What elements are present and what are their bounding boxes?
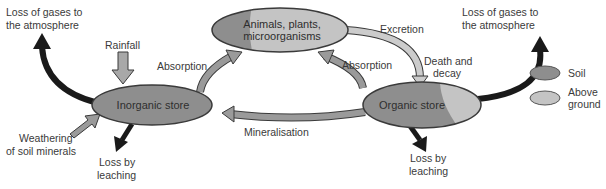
node-inorganic-label: Inorganic store — [117, 99, 190, 111]
label-rainfall: Rainfall — [105, 39, 140, 51]
legend-item-soil: Soil — [530, 66, 586, 80]
nutrient-cycle-diagram: Animals, plants, microorganisms Inorgani… — [0, 0, 606, 189]
leaching-arrow-left — [114, 124, 132, 152]
label-loss-gases-left: Loss of gases to — [6, 6, 83, 18]
legend-item-above-ground: Above ground — [530, 86, 601, 110]
legend: Soil Above ground — [530, 66, 601, 110]
label-weathering-2: of soil minerals — [6, 145, 76, 157]
label-loss-gases-right: Loss of gases to — [462, 6, 539, 18]
label-death-decay-2: decay — [433, 67, 462, 79]
node-organisms-line1: Animals, plants, — [243, 18, 321, 30]
label-leaching-right: Loss by — [410, 152, 447, 164]
node-organic-label: Organic store — [379, 99, 445, 111]
label-leaching-left-2: leaching — [97, 169, 136, 181]
label-absorption-right: Absorption — [342, 59, 392, 71]
legend-label-ground: ground — [568, 98, 601, 110]
node-inorganic-store: Inorganic store — [92, 85, 212, 125]
weathering-arrow — [70, 114, 100, 138]
label-leaching-left: Loss by — [99, 156, 136, 168]
leaching-arrow-right — [410, 126, 427, 152]
label-excretion: Excretion — [380, 23, 424, 35]
label-loss-gases-right-2: the atmosphere — [462, 19, 535, 31]
node-organisms-line2: microorganisms — [243, 30, 321, 42]
label-death-decay: Death and — [424, 55, 473, 67]
label-mineralisation: Mineralisation — [244, 126, 309, 138]
label-leaching-right-2: leaching — [409, 165, 448, 177]
rainfall-arrow — [112, 52, 134, 84]
gas-loss-arrow-left — [33, 33, 98, 103]
label-absorption-left: Absorption — [157, 60, 207, 72]
legend-label-soil: Soil — [568, 67, 586, 79]
legend-label-above: Above — [568, 86, 598, 98]
mineralisation-arrow — [222, 106, 365, 122]
label-weathering: Weathering — [19, 132, 73, 144]
label-loss-gases-left-2: the atmosphere — [6, 19, 79, 31]
node-organic-store: Organic store — [363, 80, 490, 132]
